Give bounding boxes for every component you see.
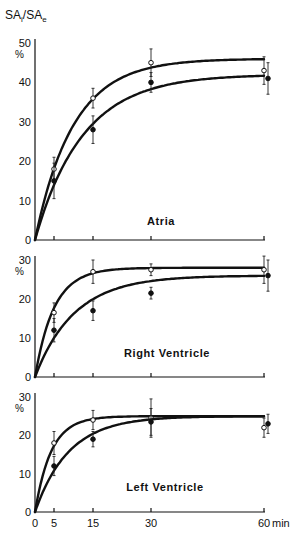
y-tick-label: 0 [25,506,31,518]
y-unit-label: % [15,49,24,60]
y-tick-label: 20 [19,429,31,441]
y-tick-label: 30 [19,254,31,266]
data-point-filled [91,127,96,132]
series-curve-open [35,59,264,240]
series-curve-open [35,268,264,377]
data-point-filled [266,422,271,427]
x-unit-label: min [272,517,290,529]
y-axis-title-main: SA [5,8,21,22]
y-tick-label: 10 [19,195,31,207]
data-point-open [52,310,57,315]
data-point-open [149,267,154,272]
data-point-open [262,425,267,430]
y-tick-label: 0 [25,234,31,246]
data-point-open [262,267,267,272]
x-tick-label: 15 [87,517,99,529]
x-tick-label: 0 [32,517,38,529]
y-tick-label: 20 [19,293,31,305]
y-tick-label: 20 [19,155,31,167]
data-point-filled [52,179,57,184]
data-point-filled [149,291,154,296]
data-point-open [149,60,154,65]
data-point-open [262,68,267,73]
panel-left-ventricle: 0102030%Left Ventricle [15,391,270,518]
data-point-filled [266,273,271,278]
data-point-filled [52,464,57,469]
data-point-filled [266,76,271,81]
y-tick-label: 50 [19,37,31,49]
svg-text:SAi/SAe: SAi/SAe [5,8,47,24]
y-tick-label: 10 [19,332,31,344]
data-point-open [91,269,96,274]
y-tick-label: 0 [25,371,31,383]
panel-right-ventricle: 0102030%Right Ventricle [15,254,270,383]
y-axis-title: SAi/SAe [5,8,47,24]
data-point-filled [149,80,154,85]
data-point-open [91,96,96,101]
data-point-open [91,418,96,423]
data-point-filled [91,308,96,313]
x-tick-label: 60 [258,517,270,529]
panel-label: Atria [147,215,175,227]
y-unit-label: % [15,403,24,414]
series-curve-filled [35,416,264,512]
y-tick-label: 30 [19,391,31,403]
data-point-filled [149,420,154,425]
data-point-open [52,441,57,446]
y-unit-label: % [15,266,24,277]
chart: SAi/SAe 01020304050%Atria0102030%Right V… [0,0,295,547]
x-tick-label: 5 [51,517,57,529]
series-curve-open [35,416,264,512]
y-tick-label: 40 [19,76,31,88]
panel-label: Right Ventricle [124,347,210,359]
y-tick-label: 10 [19,468,31,480]
data-point-filled [52,328,57,333]
panel-atria: 01020304050%Atria [15,37,270,246]
x-tick-label: 30 [145,517,157,529]
data-point-filled [91,437,96,442]
panel-label: Left Ventricle [126,481,203,493]
y-axis-title-sub2: e [42,15,47,24]
y-axis-title-slash: /SA [23,8,42,22]
y-tick-label: 30 [19,116,31,128]
